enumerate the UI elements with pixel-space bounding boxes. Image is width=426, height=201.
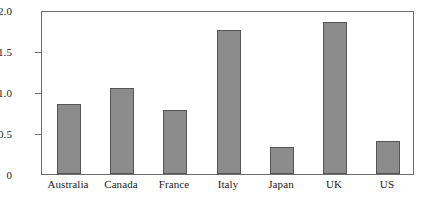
x-tick-label-japan: Japan xyxy=(268,178,294,190)
bar-chart-figure: −2.0−1.5−1.0−0.50 AustraliaCanadaFranceI… xyxy=(0,0,426,201)
y-tick-label: −1.5 xyxy=(0,46,12,58)
bar-us xyxy=(376,141,400,174)
bar-japan xyxy=(270,147,294,174)
bars-layer xyxy=(42,12,413,174)
x-tick-label-italy: Italy xyxy=(218,178,239,190)
bar-australia xyxy=(57,104,81,174)
bar-france xyxy=(163,110,187,174)
plot-area xyxy=(41,11,414,175)
bar-uk xyxy=(323,22,347,174)
x-tick-label-canada: Canada xyxy=(104,178,138,190)
x-tick-label-australia: Australia xyxy=(47,178,88,190)
x-tick-label-france: France xyxy=(159,178,190,190)
bar-italy xyxy=(217,30,241,174)
y-tick-label: −0.5 xyxy=(0,128,12,140)
x-tick-label-us: US xyxy=(380,178,394,190)
y-tick-label: 0 xyxy=(6,169,12,181)
y-tick-label: −2.0 xyxy=(0,5,12,17)
x-tick-label-uk: UK xyxy=(326,178,342,190)
x-axis: AustraliaCanadaFranceItalyJapanUKUS xyxy=(41,178,414,198)
bar-canada xyxy=(110,88,134,174)
y-axis: −2.0−1.5−1.0−0.50 xyxy=(0,0,41,201)
y-tick-label: −1.0 xyxy=(0,87,12,99)
